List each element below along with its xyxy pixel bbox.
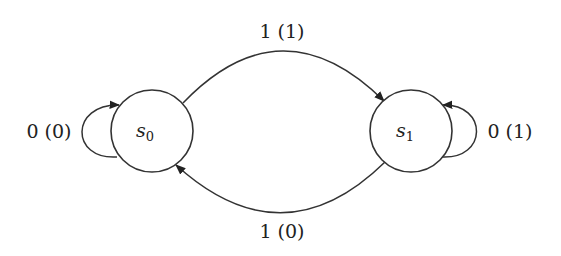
edge-s1-to-s0	[176, 162, 385, 213]
label-s1-to-s0: 1 (0)	[259, 220, 304, 242]
label-s0-self-loop: 0 (0)	[26, 120, 71, 142]
label-s0-to-s1: 1 (1)	[259, 20, 304, 42]
state-s0: s0	[111, 90, 193, 172]
state-s1: s1	[370, 90, 452, 172]
edge-s0-to-s1	[183, 51, 384, 103]
label-s1-self-loop: 0 (1)	[487, 120, 532, 142]
state-diagram: s0 s1 0 (0) 1 (1) 0 (1) 1 (0)	[0, 0, 561, 256]
